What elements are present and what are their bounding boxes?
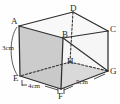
cuboid-diagram-svg: A B C D E F G H 3cm 4cm 5cm bbox=[0, 0, 120, 104]
vertex-label-f: F bbox=[58, 91, 63, 101]
vertex-label-g: G bbox=[110, 66, 117, 76]
geometry-figure: A B C D E F G H 3cm 4cm 5cm bbox=[0, 0, 120, 104]
measurement-label-height: 3cm bbox=[2, 44, 15, 52]
vertex-label-b: B bbox=[62, 29, 68, 39]
vertex-label-e: E bbox=[13, 73, 19, 83]
vertex-label-a: A bbox=[11, 16, 18, 26]
measurement-label-depth: 4cm bbox=[28, 82, 41, 90]
vertex-label-d: D bbox=[70, 3, 77, 13]
measurement-label-width: 5cm bbox=[76, 78, 89, 86]
vertex-label-h: H bbox=[67, 56, 74, 66]
vertex-label-c: C bbox=[110, 24, 116, 34]
